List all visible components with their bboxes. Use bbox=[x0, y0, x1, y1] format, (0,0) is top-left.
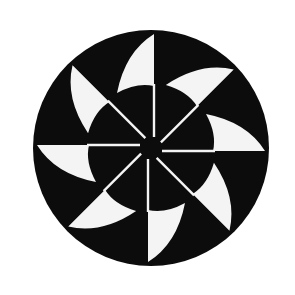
emblem-graphic bbox=[0, 0, 295, 295]
pinwheel-emblem: Pinwheel emblem bbox=[0, 0, 295, 295]
